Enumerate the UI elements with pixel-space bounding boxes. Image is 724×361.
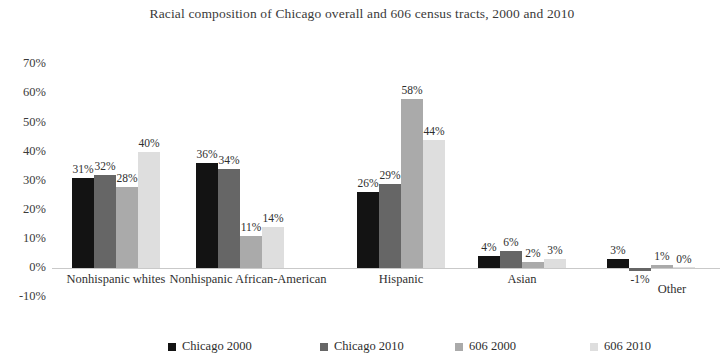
bar[interactable] [607,259,629,268]
x-axis-category-label: Other [658,282,686,297]
y-axis-tick-label: 40% [0,144,46,159]
x-axis-category-label: Nonhispanic whites [67,272,166,287]
bar-value-label: 34% [212,154,246,166]
bar[interactable] [423,140,445,268]
y-axis-tick-label: 0% [0,260,46,275]
y-axis-tick-label: -10% [0,289,46,304]
legend-label: 606 2000 [469,339,516,354]
bar-value-label: 44% [417,125,451,137]
bar[interactable] [673,267,695,268]
bar[interactable] [116,187,138,268]
bar-value-label: 58% [395,84,429,96]
bar-value-label: 6% [494,236,528,248]
bar[interactable] [218,169,240,268]
bar[interactable] [478,256,500,268]
legend-swatch-icon [168,343,176,351]
chart-legend: Chicago 2000Chicago 2010606 2000606 2010 [0,339,724,359]
legend-label: Chicago 2000 [182,339,252,354]
bar[interactable] [544,259,566,268]
bar-value-label: 40% [132,137,166,149]
bar[interactable] [72,178,94,268]
bar[interactable] [357,192,379,268]
bar[interactable] [262,227,284,268]
bar-value-label: 14% [256,212,290,224]
legend-label: Chicago 2010 [334,339,404,354]
bar-value-label: 3% [601,244,635,256]
legend-item[interactable]: 606 2000 [455,339,516,354]
bar[interactable] [629,268,651,271]
bar[interactable] [522,262,544,268]
y-axis-tick-label: 10% [0,231,46,246]
y-axis-tick-label: 60% [0,85,46,100]
bar[interactable] [379,184,401,268]
bar[interactable] [240,236,262,268]
bar[interactable] [94,175,116,268]
legend-swatch-icon [320,343,328,351]
legend-item[interactable]: 606 2010 [590,339,651,354]
bar-value-label: 0% [667,253,701,265]
bar[interactable] [138,152,160,268]
y-axis-tick-label: 30% [0,173,46,188]
bar-value-label: 32% [88,160,122,172]
legend-swatch-icon [455,343,463,351]
legend-item[interactable]: Chicago 2000 [168,339,252,354]
legend-label: 606 2010 [604,339,651,354]
bar[interactable] [651,265,673,268]
bar-value-label: 3% [538,244,572,256]
x-axis-category-label: Asian [507,272,536,287]
bar[interactable] [196,163,218,268]
legend-swatch-icon [590,343,598,351]
x-axis-category-label: Nonhispanic African-American [169,272,326,287]
bar-chart-plot: 70%60%50%40%30%20%10%0%-10% 31%32%28%40%… [0,0,724,361]
zero-axis-line [52,268,720,269]
y-axis-tick-label: 50% [0,115,46,130]
bar-value-label: -1% [623,273,657,285]
y-axis-tick-label: 20% [0,202,46,217]
legend-item[interactable]: Chicago 2010 [320,339,404,354]
y-axis-tick-label: 70% [0,56,46,71]
x-axis-category-label: Hispanic [379,272,423,287]
